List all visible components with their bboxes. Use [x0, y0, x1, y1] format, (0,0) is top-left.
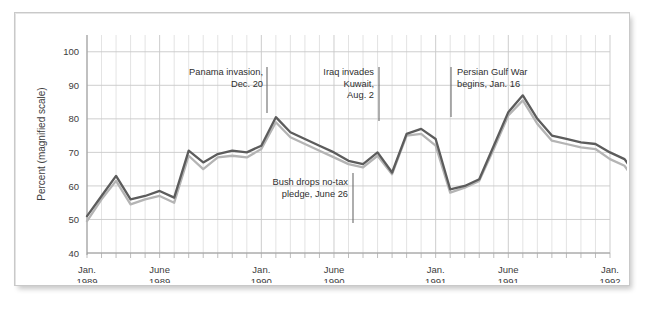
x-axis-tick-label-4-year: 1991 [425, 276, 446, 283]
x-axis-tick-label-3-year: 1990 [323, 276, 344, 283]
y-axis-tick-label-100: 100 [63, 46, 79, 57]
x-axis-tick-label-4-month: Jan. [427, 264, 445, 275]
x-axis-tick-label-6-year: 1992 [599, 276, 620, 283]
x-axis-tick-label-2-month: Jan. [252, 264, 270, 275]
screenshot-root: 405060708090100Percent (magnified scale)… [0, 0, 652, 310]
x-axis-tick-label-0-year: 1989 [76, 276, 97, 283]
y-axis-tick-label-40: 40 [68, 248, 79, 259]
data-series-light [87, 100, 627, 229]
annotation-label-persian-gulf-war-begins-line-2: begins, Jan. 16 [457, 79, 520, 89]
y-axis-tick-label-80: 80 [68, 113, 79, 124]
annotation-label-iraq-invades-kuwait-line-3: Aug. 2 [347, 90, 374, 100]
x-axis-tick-label-2-year: 1990 [251, 276, 272, 283]
chart-card: 405060708090100Percent (magnified scale)… [14, 12, 630, 286]
y-axis-title: Percent (magnified scale) [36, 87, 47, 200]
annotation-label-iraq-invades-kuwait-line-1: Iraq invades [323, 67, 374, 77]
annotation-label-bush-drops-no-tax-pledge-line-1: Bush drops no-tax [273, 177, 349, 187]
y-axis-tick-label-90: 90 [68, 80, 79, 91]
x-axis-tick-label-1-year: 1989 [149, 276, 170, 283]
x-axis-tick-label-1-month: June [149, 264, 170, 275]
x-axis-tick-label-5-year: 1991 [498, 276, 519, 283]
y-axis-tick-label-50: 50 [68, 214, 79, 225]
x-axis-tick-label-6-month: Jan. [601, 264, 619, 275]
x-axis-tick-label-5-month: June [498, 264, 519, 275]
x-axis-tick-label-0-month: Jan. [78, 264, 96, 275]
approval-rating-line-chart: 405060708090100Percent (magnified scale)… [15, 13, 627, 283]
x-axis-tick-label-3-month: June [324, 264, 345, 275]
annotation-label-persian-gulf-war-begins-line-1: Persian Gulf War [457, 67, 527, 77]
y-axis-tick-label-60: 60 [68, 181, 79, 192]
annotation-label-panama-invasion-line-1: Panama invasion, [189, 67, 263, 77]
annotation-label-panama-invasion-line-2: Dec. 20 [231, 79, 263, 89]
y-axis-tick-label-70: 70 [68, 147, 79, 158]
annotation-label-iraq-invades-kuwait-line-2: Kuwait, [344, 79, 375, 89]
annotation-label-bush-drops-no-tax-pledge-line-2: pledge, June 26 [282, 189, 348, 199]
data-series-dark [87, 95, 627, 222]
